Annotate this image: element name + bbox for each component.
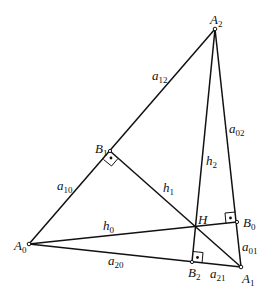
- label-h1: h1: [163, 180, 174, 197]
- point-a2: [213, 27, 217, 31]
- label-a2: A2: [209, 12, 222, 29]
- label-h2: h2: [206, 153, 217, 170]
- label-b1: B1: [95, 141, 107, 158]
- side-a2-a1: [215, 29, 241, 267]
- label-a0: A0: [13, 238, 27, 255]
- label-a12: a12: [152, 68, 168, 85]
- point-b2: [190, 260, 193, 263]
- point-b0: [235, 220, 238, 223]
- right-angle-marker-b1: [104, 157, 119, 166]
- altitude-h2: [192, 29, 215, 262]
- label-a1: A1: [241, 271, 254, 288]
- point-b1: [108, 149, 111, 152]
- label-b0: B0: [243, 215, 256, 232]
- side-a0-a1: [29, 244, 241, 267]
- label-h0: h0: [103, 218, 115, 235]
- label-a02: a02: [229, 121, 245, 138]
- label-a01: a01: [242, 239, 258, 256]
- label-b2: B2: [188, 265, 200, 282]
- altitude-h1: [110, 151, 241, 267]
- side-a0-a2: [29, 29, 215, 244]
- point-a0: [27, 242, 31, 246]
- label-h: H: [197, 212, 208, 227]
- label-a20: a20: [108, 253, 124, 270]
- orthocenter-diagram: A2 B1 H B0 A0 B2 A1 a12 a02 h2 a10 h1 h0…: [0, 0, 267, 294]
- label-a10: a10: [57, 178, 73, 195]
- point-a1: [239, 265, 243, 269]
- label-a21: a21: [210, 266, 226, 283]
